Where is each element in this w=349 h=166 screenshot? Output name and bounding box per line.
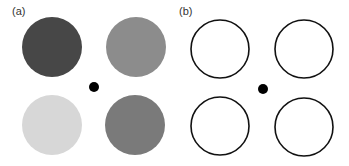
fixation-dot	[258, 84, 268, 94]
circle-top-right	[106, 17, 166, 77]
circle-top-left	[191, 20, 249, 78]
stimulus-diagram	[0, 0, 349, 166]
circle-top-right	[275, 20, 333, 78]
circle-bottom-right	[275, 98, 333, 156]
panel-b	[191, 20, 333, 156]
circle-bottom-right	[105, 95, 165, 155]
circle-top-left	[22, 17, 82, 77]
fixation-dot	[89, 82, 99, 92]
circle-bottom-left	[191, 97, 249, 155]
circle-bottom-left	[22, 95, 82, 155]
panel-a	[22, 17, 166, 155]
